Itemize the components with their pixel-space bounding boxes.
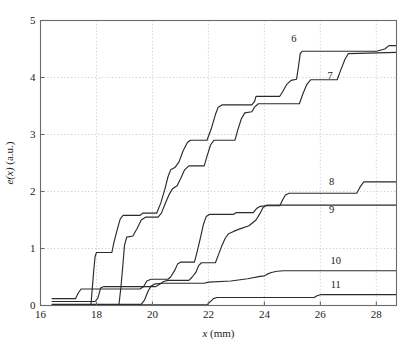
y-tick-label: 5 (30, 14, 36, 26)
data-curve-10 (52, 271, 397, 305)
series-annotation-8: 8 (329, 176, 334, 187)
y-tick-label: 3 (30, 128, 36, 140)
y-tick-label: 4 (30, 71, 36, 83)
x-tick-label: 26 (315, 308, 327, 320)
data-curve-6 (52, 46, 397, 306)
data-curve-9 (52, 205, 397, 301)
series-annotation-11: 11 (331, 279, 341, 290)
series-annotation-7: 7 (328, 70, 333, 81)
x-tick-label: 18 (91, 308, 103, 320)
series-annotations: 67891011 (291, 33, 341, 290)
x-axis-title: x (mm) (201, 327, 234, 340)
x-tick-label: 28 (371, 308, 383, 320)
y-axis-title: e(x) (a.u.) (3, 141, 16, 184)
x-tick-label: 16 (35, 308, 47, 320)
y-tick-label: 2 (30, 185, 36, 197)
series-annotation-10: 10 (331, 255, 342, 266)
data-curve-7 (52, 52, 397, 305)
y-tick-label: 0 (30, 299, 36, 311)
x-tick-label: 22 (203, 308, 214, 320)
x-tick-label: 24 (259, 308, 271, 320)
x-tick-label: 20 (147, 308, 159, 320)
data-series-group (52, 46, 397, 306)
step-line-chart: 16182022242628 012345 67891011 x (mm) e(… (0, 0, 415, 349)
series-annotation-9: 9 (329, 204, 334, 215)
data-curve-11 (52, 295, 397, 305)
y-tick-label: 1 (30, 242, 36, 254)
chart-container: 16182022242628 012345 67891011 x (mm) e(… (0, 0, 415, 349)
y-axis-ticks: 012345 (30, 14, 45, 311)
series-annotation-6: 6 (291, 33, 296, 44)
